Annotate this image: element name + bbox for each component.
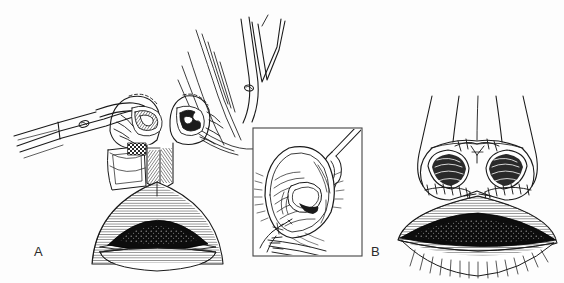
right-forceps bbox=[241, 15, 285, 123]
right-nostril-detail bbox=[177, 106, 224, 144]
inset-detail-box bbox=[253, 125, 362, 264]
illustration-canvas bbox=[0, 0, 564, 283]
panel-label-b: B bbox=[371, 245, 380, 258]
upper-lip-b bbox=[398, 196, 557, 278]
panel-b-illustration bbox=[398, 96, 557, 278]
left-nostril-b bbox=[428, 150, 469, 189]
panel-a-illustration bbox=[14, 15, 285, 271]
nostril-aperture bbox=[288, 182, 322, 214]
right-soft-tissue bbox=[178, 30, 258, 155]
graft-checker-block bbox=[128, 143, 146, 155]
upper-lip-a bbox=[92, 182, 223, 271]
right-nostril-b bbox=[486, 150, 527, 189]
figure-root: A B bbox=[0, 0, 564, 283]
panel-label-a: A bbox=[34, 245, 43, 258]
